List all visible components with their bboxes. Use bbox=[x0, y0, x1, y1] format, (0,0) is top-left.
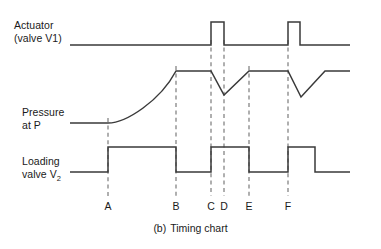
time-mark-label-A: A bbox=[101, 200, 115, 212]
time-mark-label-D: D bbox=[217, 200, 231, 212]
time-mark-label-C: C bbox=[204, 200, 218, 212]
actuator-label-line1: Actuator bbox=[14, 19, 62, 32]
loading-valve-trace-label: Loading valve V2 bbox=[22, 155, 61, 180]
loading-label-line2: valve V2 bbox=[22, 168, 61, 181]
time-mark-label-F: F bbox=[281, 200, 295, 212]
loading-label-subscript: 2 bbox=[57, 174, 61, 183]
pressure-label-line2: at P bbox=[22, 119, 64, 132]
loading-label-prefix: valve V bbox=[22, 168, 57, 180]
figure-caption-number: (b) bbox=[153, 222, 166, 234]
pressure-trace-label: Pressure at P bbox=[22, 106, 64, 131]
pressure-label-line1: Pressure bbox=[22, 106, 64, 119]
time-mark-label-E: E bbox=[242, 200, 256, 212]
figure-caption: (b)Timing chart bbox=[0, 222, 381, 234]
actuator-label-line2: (valve V1) bbox=[14, 32, 62, 45]
time-mark-label-B: B bbox=[169, 200, 183, 212]
figure-caption-text: Timing chart bbox=[170, 222, 227, 234]
timing-chart-figure: Actuator (valve V1) Pressure at P Loadin… bbox=[0, 0, 381, 249]
actuator-trace-label: Actuator (valve V1) bbox=[14, 19, 62, 44]
pressure-waveform bbox=[70, 71, 350, 123]
loading-valve-waveform bbox=[70, 147, 350, 172]
actuator-waveform bbox=[70, 22, 350, 45]
loading-label-line1: Loading bbox=[22, 155, 61, 168]
